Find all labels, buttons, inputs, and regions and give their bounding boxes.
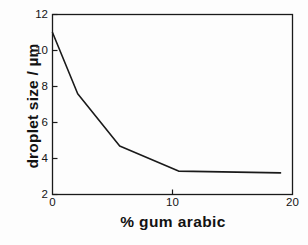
x-axis-tick-labels: 01020 (0, 197, 308, 213)
x-axis-tick-label: 0 (40, 197, 66, 209)
data-line (53, 33, 281, 173)
x-axis-tick-label: 20 (280, 197, 306, 209)
x-axis-tick-label: 10 (160, 197, 186, 209)
data-series-group (53, 33, 281, 173)
chart-figure: droplet size / µm 24681012 01020 % gum a… (0, 0, 308, 245)
x-axis-label: % gum arabic (52, 213, 294, 231)
plot-frame-rect (53, 15, 293, 195)
plot-frame (53, 15, 293, 195)
